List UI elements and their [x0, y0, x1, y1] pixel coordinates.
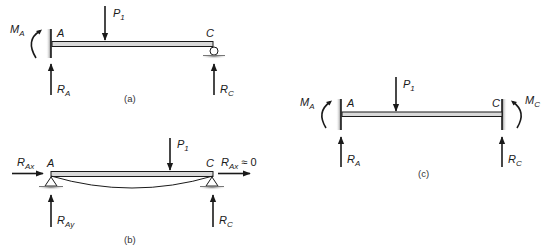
- panel-b: P1 RAx RAx ≈ 0 A C RAy RC (b): [12, 138, 257, 245]
- panel-c: P1 MA MC A C RA RC (c): [300, 77, 540, 179]
- load-label-p1: P1: [113, 7, 125, 22]
- reaction-label-ra: RA: [57, 83, 70, 98]
- moment-arrow-mc: [513, 102, 521, 128]
- reaction-label-rc: RC: [220, 83, 234, 98]
- point-label-a: A: [46, 157, 54, 169]
- reaction-label-ra: RA: [347, 153, 360, 168]
- reaction-label-ray: RAy: [57, 214, 75, 229]
- point-label-c: C: [206, 157, 214, 169]
- beam-diagrams: P1 MA A C RA RC (a): [0, 0, 548, 252]
- caption-b: (b): [124, 234, 136, 245]
- reaction-label-rc: RC: [508, 153, 522, 168]
- beam-a: [52, 42, 213, 47]
- point-label-a: A: [56, 27, 64, 39]
- reaction-label-rax: RAx: [17, 156, 35, 171]
- caption-c: (c): [418, 168, 429, 179]
- beam-b: [51, 172, 213, 177]
- reaction-label-rax-approx-zero: RAx ≈ 0: [221, 156, 257, 171]
- point-label-a: A: [346, 97, 354, 109]
- caption-a: (a): [124, 93, 136, 104]
- point-label-c: C: [492, 97, 500, 109]
- panel-a: P1 MA A C RA RC (a): [10, 6, 234, 104]
- reaction-label-rc: RC: [219, 214, 233, 229]
- moment-label-mc: MC: [525, 94, 540, 109]
- beam-c: [342, 112, 502, 117]
- fixed-wall-a: [46, 29, 51, 58]
- moment-arrow-ma: [31, 31, 40, 58]
- roller-support-c: [202, 47, 226, 60]
- load-label-p1: P1: [177, 138, 189, 153]
- point-label-c: C: [206, 27, 214, 39]
- moment-label-ma: MA: [300, 96, 315, 111]
- deflected-shape: [51, 176, 213, 188]
- load-label-p1: P1: [403, 78, 415, 93]
- fixed-wall-a: [336, 99, 341, 130]
- moment-label-ma: MA: [10, 23, 25, 38]
- moment-arrow-ma: [322, 102, 330, 128]
- fixed-wall-c: [502, 99, 507, 130]
